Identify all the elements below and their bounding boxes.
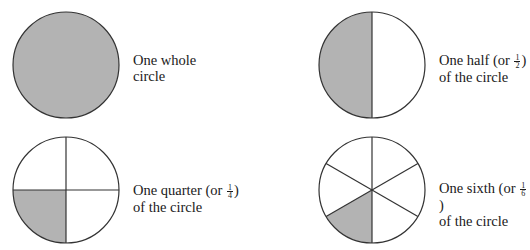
- half-label-line1: One half (or 12): [439, 52, 526, 69]
- half-circle: [319, 12, 425, 118]
- whole-label-line1: One whole: [133, 52, 196, 68]
- sixth-label-line2: of the circle: [439, 213, 530, 229]
- sixth-label-line1: One sixth (or 16): [439, 180, 530, 213]
- quarter-label-line2: of the circle: [133, 199, 239, 215]
- half-label: One half (or 12) of the circle: [439, 52, 526, 85]
- quarter-label-line1: One quarter (or 14): [133, 182, 239, 199]
- sixth-label: One sixth (or 16) of the circle: [439, 180, 530, 229]
- fraction-one-quarter: 14: [227, 184, 233, 199]
- half-label-line2: of the circle: [439, 69, 526, 85]
- quarter-label: One quarter (or 14) of the circle: [133, 182, 239, 215]
- whole-label-line2: circle: [133, 68, 196, 84]
- sixth-circle: [319, 137, 425, 243]
- whole-circle: [13, 12, 119, 118]
- whole-label: One whole circle: [133, 52, 196, 84]
- quarter-circle: [13, 137, 119, 243]
- fraction-one-half: 12: [514, 54, 520, 69]
- fraction-one-sixth: 16: [520, 182, 526, 197]
